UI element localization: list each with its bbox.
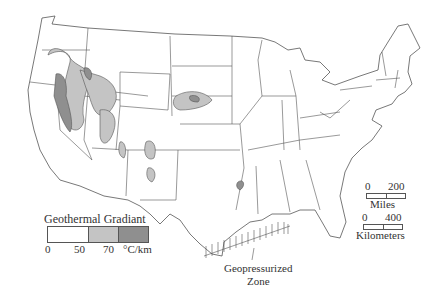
legend-swatch-mid — [89, 227, 119, 242]
scale-miles-end: 200 — [388, 180, 405, 192]
legend-tick-0: 0 — [45, 243, 51, 255]
legend-swatch-low — [48, 227, 89, 242]
legend-unit: °C/km — [123, 243, 152, 255]
legend-tick-50: 50 — [74, 243, 85, 255]
annotation-line1: Geopressurized — [224, 262, 292, 274]
legend-title: Geothermal Gradiant — [44, 212, 146, 227]
scale-km-end: 400 — [385, 211, 402, 223]
scale-miles-start: 0 — [365, 180, 371, 192]
scale-km-start: 0 — [362, 211, 368, 223]
scale-miles-unit: Miles — [370, 198, 395, 210]
scale-km-unit: Kilometers — [356, 229, 405, 241]
legend-bar — [47, 226, 149, 243]
annotation-line2: Zone — [247, 275, 270, 287]
legend-swatch-high — [119, 227, 148, 242]
legend-tick-70: 70 — [103, 243, 114, 255]
us-geothermal-map — [0, 0, 448, 293]
